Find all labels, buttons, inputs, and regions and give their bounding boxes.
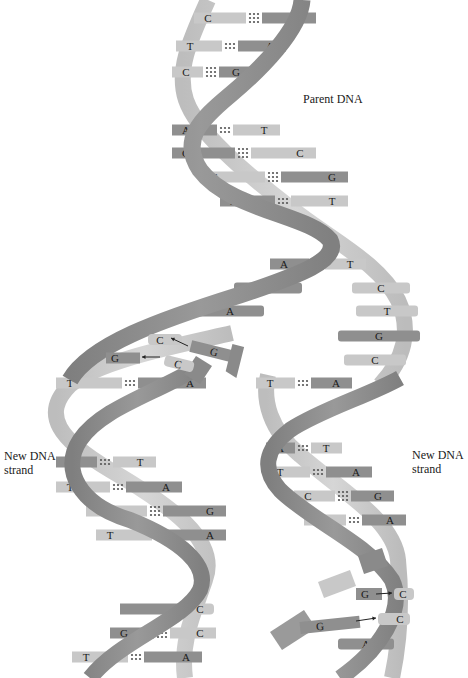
unpaired-base: C [352, 282, 410, 294]
base-letter: T [107, 529, 114, 541]
base-letter: A [386, 514, 394, 526]
label-line: strand [4, 463, 56, 477]
base-letter: T [83, 651, 90, 663]
dna-replication-diagram: CGTACGATGCCGATAT GACTGC TAATTACGTAGCTAC … [0, 0, 468, 678]
base-pair: TA [72, 651, 202, 663]
base-letter: C [296, 147, 303, 159]
base-letter: A [162, 481, 170, 493]
base-letter: T [347, 258, 354, 270]
new-dna-strand-label-left: New DNA strand [4, 449, 56, 477]
unpaired-base: C [344, 354, 406, 366]
new-dna-strand-label-right: New DNA strand [412, 448, 464, 476]
base-letter: T [267, 377, 274, 389]
base-letter: T [187, 40, 194, 52]
base-letter: A [352, 466, 360, 478]
base-letter: A [280, 258, 288, 270]
base-letter: G [328, 171, 336, 183]
base-letter: C [399, 588, 406, 600]
base-letter: A [332, 377, 340, 389]
base-letter: A [206, 529, 214, 541]
base-letter: C [396, 613, 403, 625]
base-letter: T [329, 195, 336, 207]
base-letter: T [261, 124, 268, 136]
base-pair: TA [256, 377, 352, 389]
label-line: strand [412, 462, 464, 476]
base-letter: G [361, 588, 369, 600]
base-letter: A [182, 651, 190, 663]
base-letter: G [206, 505, 214, 517]
label-line: New DNA [412, 448, 464, 462]
parent-dna-label: Parent DNA [303, 92, 363, 106]
parent-backbone-dark [70, 0, 332, 380]
base-letter: G [111, 352, 119, 364]
unpaired-base: T [356, 305, 418, 317]
base-letter: C [204, 12, 211, 24]
base-letter: C [196, 627, 203, 639]
base-letter: G [315, 620, 324, 633]
base-letter: C [377, 282, 384, 294]
base-letter: C [182, 66, 189, 78]
unpaired-base: G [338, 330, 420, 342]
base-letter: C [371, 354, 378, 366]
base-pair: CG [294, 490, 394, 502]
base-letter: T [384, 305, 391, 317]
base-letter: C [304, 490, 311, 502]
base-letter: T [137, 456, 144, 468]
base-letter: T [323, 442, 330, 454]
base-letter: C [156, 334, 163, 346]
base-letter: G [375, 330, 383, 342]
base-letter: G [374, 490, 382, 502]
label-line: New DNA [4, 449, 56, 463]
